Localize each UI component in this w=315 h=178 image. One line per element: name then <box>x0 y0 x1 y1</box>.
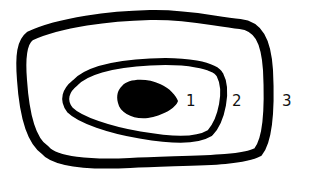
label-3: 3 <box>282 92 292 110</box>
nested-regions-diagram: 1 2 3 <box>0 0 315 178</box>
label-2: 2 <box>232 92 242 110</box>
core-region-1 <box>117 80 178 119</box>
label-1: 1 <box>186 92 196 110</box>
